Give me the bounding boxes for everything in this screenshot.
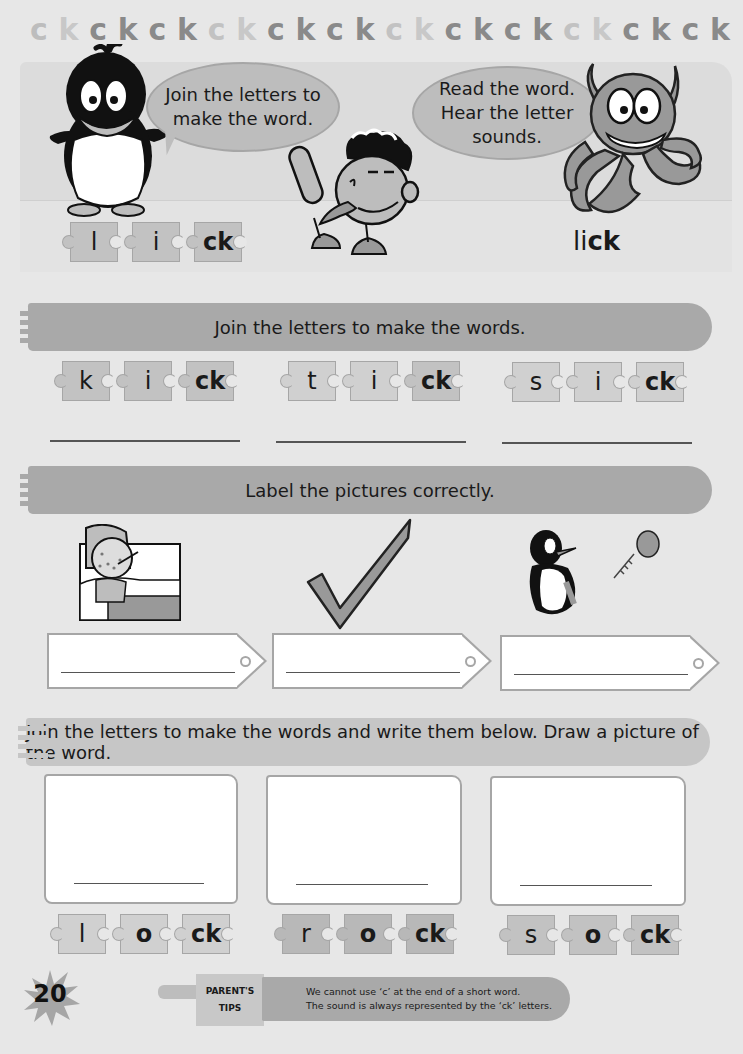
strip-letter: k [651, 15, 671, 45]
puzzle-piece[interactable]: ck [406, 914, 454, 954]
label-tag-3[interactable] [500, 635, 690, 691]
piece-letter: s [530, 368, 543, 396]
piece-letter: ck [191, 920, 221, 948]
paintbrush-handle-icon [158, 985, 200, 999]
strip-letter: k [473, 15, 493, 45]
answer-line-3[interactable] [502, 442, 692, 444]
box-answer-line [296, 884, 428, 886]
drawing-box-3[interactable] [490, 776, 686, 906]
tips-label-line: PARENT'S [206, 983, 255, 1000]
piece-letter: r [301, 920, 311, 948]
label-tag-1[interactable] [47, 633, 237, 689]
puzzle-piece[interactable]: o [344, 914, 392, 954]
strip-letter: k [118, 15, 138, 45]
parents-tips-text: We cannot use ‘c’ at the end of a short … [262, 977, 570, 1021]
piece-letter: s [525, 921, 538, 949]
section-title: Join the letters to make the words. [214, 317, 525, 338]
tag-answer-line [514, 674, 688, 676]
answer-line-1[interactable] [50, 440, 240, 442]
piece-letter: i [145, 367, 152, 395]
strip-letter: k [592, 15, 612, 45]
puzzle-piece[interactable]: i [132, 222, 180, 262]
tag-answer-line [286, 672, 460, 674]
boy-licking-lolly-illustration [288, 128, 428, 260]
puzzle-piece[interactable]: k [62, 361, 110, 401]
strip-letter: k [710, 15, 730, 45]
puzzle-piece[interactable]: ck [412, 361, 460, 401]
piece-letter: o [585, 921, 602, 949]
strip-letter: c [208, 15, 226, 45]
strip-letter: c [622, 15, 640, 45]
puzzle-piece[interactable]: ck [182, 914, 230, 954]
worksheet-page: ckckckckckckckckckckckck Join the letter… [0, 0, 743, 1054]
piece-letter: ck [415, 920, 445, 948]
puzzle-piece[interactable]: l [58, 914, 106, 954]
strip-letter: k [295, 15, 315, 45]
tips-text-line: The sound is always represented by the ‘… [306, 999, 570, 1013]
puzzle-piece[interactable]: o [120, 914, 168, 954]
puzzle-piece[interactable]: ck [631, 915, 679, 955]
bubble-text-line: Join the letters to [165, 83, 321, 107]
tag-answer-line [61, 672, 235, 674]
piece-letter: i [153, 228, 160, 256]
puzzle-piece[interactable]: i [574, 362, 622, 402]
strip-letter: k [236, 15, 256, 45]
intro-puzzle-row: l i ck [70, 222, 242, 262]
puzzle-piece[interactable]: s [507, 915, 555, 955]
piece-letter: ck [645, 368, 675, 396]
strip-letter: c [30, 15, 48, 45]
strip-letter: c [326, 15, 344, 45]
puzzle-piece[interactable]: r [282, 914, 330, 954]
puzzle-piece[interactable]: ck [194, 222, 242, 262]
piece-letter: ck [421, 367, 451, 395]
piece-letter: l [91, 228, 98, 256]
piece-letter: ck [195, 367, 225, 395]
tag-hole-icon [240, 656, 251, 667]
puzzle-piece[interactable]: i [350, 361, 398, 401]
strip-letter: c [267, 15, 285, 45]
parents-tips-label: PARENT'S TIPS [196, 974, 264, 1026]
example-word-lick: lick [573, 226, 620, 256]
puzzle-group-sick: s i ck [512, 362, 684, 402]
tick-mark-picture [304, 518, 416, 630]
section-title: Join the letters to make the words and w… [26, 721, 710, 763]
tag-hole-icon [693, 658, 704, 669]
puzzle-piece[interactable]: ck [186, 361, 234, 401]
answer-line-2[interactable] [276, 441, 466, 443]
sick-girl-picture [78, 524, 184, 622]
section-title: Label the pictures correctly. [245, 480, 494, 501]
piece-letter: o [360, 920, 377, 948]
piece-letter: t [307, 367, 316, 395]
box-answer-line [520, 885, 652, 887]
puzzle-group-lock: l o ck [58, 914, 230, 954]
strip-letter: c [445, 15, 463, 45]
piece-letter: o [136, 920, 153, 948]
box-answer-line [74, 883, 204, 885]
puzzle-piece[interactable]: ck [636, 362, 684, 402]
strip-letter: c [89, 15, 107, 45]
drawing-box-2[interactable] [266, 775, 462, 905]
puzzle-piece[interactable]: s [512, 362, 560, 402]
strip-letter: k [414, 15, 434, 45]
puzzle-piece[interactable]: i [124, 361, 172, 401]
piece-letter: ck [640, 921, 670, 949]
puzzle-piece[interactable]: t [288, 361, 336, 401]
strip-letter: k [355, 15, 375, 45]
strip-letter: k [59, 15, 79, 45]
puzzle-group-rock: r o ck [282, 914, 454, 954]
puzzle-group-tick: t i ck [288, 361, 460, 401]
strip-letter: c [563, 15, 581, 45]
piece-letter: i [371, 367, 378, 395]
puzzle-group-sock: s o ck [507, 915, 679, 955]
tips-text-line: We cannot use ‘c’ at the end of a short … [306, 985, 570, 999]
section-banner-label-pictures: Label the pictures correctly. [28, 466, 712, 514]
section-banner-draw-picture: Join the letters to make the words and w… [26, 718, 710, 766]
puzzle-piece[interactable]: l [70, 222, 118, 262]
word-bold-part: ck [587, 226, 620, 256]
tag-hole-icon [465, 656, 476, 667]
puzzle-piece[interactable]: o [569, 915, 617, 955]
label-tag-2[interactable] [272, 633, 462, 689]
piece-letter: l [79, 920, 86, 948]
drawing-box-1[interactable] [44, 774, 238, 904]
piece-letter: i [595, 368, 602, 396]
